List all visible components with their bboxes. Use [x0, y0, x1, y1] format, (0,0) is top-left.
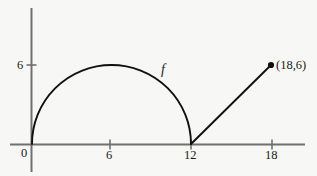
x-tick-label-12: 12 [184, 149, 197, 162]
figure-canvas: 0 6 12 18 6 f (18,6) [0, 0, 317, 176]
y-tick-label-6: 6 [17, 59, 23, 72]
x-tick-label-18: 18 [265, 149, 278, 162]
semicircle-curve [32, 65, 191, 144]
origin-label: 0 [21, 147, 27, 160]
endpoint-coordinate-label: (18,6) [276, 59, 306, 72]
line-segment-curve [191, 66, 271, 145]
curve-label-f: f [161, 63, 165, 77]
x-tick-label-6: 6 [106, 149, 112, 162]
endpoint-dot [268, 62, 274, 68]
